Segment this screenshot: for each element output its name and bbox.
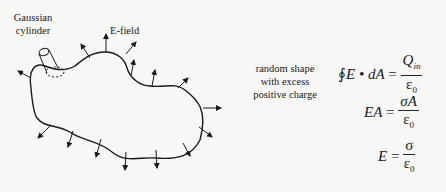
- eq3-equals: =: [391, 148, 399, 164]
- gaussian-cylinder-label: Gaussian cylinder: [8, 11, 58, 37]
- e-field-label: E-field: [110, 24, 139, 37]
- eq3-den-sub: 0: [410, 164, 415, 174]
- gaussian-cylinder: [38, 47, 64, 77]
- eq1-num-sub: in: [413, 61, 420, 71]
- eq2-equals: =: [386, 104, 394, 120]
- eq2-num: σA: [398, 93, 419, 111]
- eq3-den: ε0: [403, 155, 415, 178]
- eq3-lhs: E: [378, 148, 387, 164]
- eq2-lhs: EA: [364, 104, 382, 120]
- eq2-den: ε0: [398, 111, 419, 134]
- closed-integral-symbol: ∮: [338, 66, 346, 82]
- random-shape-label: random shape with excess positive charge: [246, 62, 324, 101]
- charged-surface-outline: [30, 52, 203, 159]
- eq1-equals: =: [388, 66, 396, 82]
- eq1-num-text: Q: [403, 52, 414, 68]
- eq2-den-sub: 0: [409, 120, 414, 130]
- flux-equation: EA = σAε0: [364, 93, 419, 134]
- gauss-law-equation: ∮E • dA = Qinε0: [338, 52, 422, 99]
- eq1-lhs: E • dA: [346, 66, 385, 82]
- field-equation: E = σε0: [378, 137, 415, 178]
- eq3-num: σ: [403, 137, 415, 155]
- e-field-arrows: [18, 34, 221, 170]
- eq1-num: Qin: [401, 52, 423, 76]
